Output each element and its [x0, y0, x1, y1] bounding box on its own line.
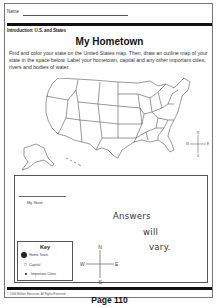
map-compass-rose: N S W E	[186, 131, 210, 157]
key-item-label: Capital	[29, 263, 40, 267]
svg-text:W: W	[186, 142, 189, 146]
answer-text-line-2: will	[143, 227, 158, 237]
key-item-label: Home Town	[29, 253, 48, 257]
svg-text:E: E	[207, 142, 209, 146]
us-map-image	[18, 78, 204, 174]
key-item-label: Important Cities	[31, 272, 56, 276]
worksheet-title: My Hometown	[0, 36, 219, 47]
page-number: Page 110	[0, 295, 219, 305]
svg-text:W: W	[80, 261, 85, 267]
small-dot-icon	[25, 273, 27, 275]
state-name-line[interactable]	[19, 196, 66, 197]
svg-text:N: N	[197, 131, 199, 135]
name-label: Name	[7, 9, 19, 14]
instructions-text: Find and color your state on the United …	[9, 50, 209, 71]
svg-text:S: S	[197, 154, 199, 157]
state-compass-rose: N S W E	[80, 244, 120, 284]
my-state-drawing-box[interactable]: My State Answers will vary. Key Home Tow…	[14, 175, 208, 283]
my-state-label: My State	[27, 200, 43, 205]
bottom-divider-bar	[7, 287, 212, 290]
worksheet-subtitle: Introduction: U.S. and States	[7, 28, 66, 33]
svg-text:S: S	[99, 279, 103, 284]
svg-text:N: N	[98, 244, 102, 250]
answer-text-line-1: Answers	[113, 211, 151, 221]
star-icon: ☆	[23, 262, 27, 267]
key-item-important-cities: Important Cities	[23, 272, 56, 276]
name-input-line[interactable]	[23, 15, 128, 16]
key-item-capital: ☆ Capital	[23, 262, 40, 267]
filled-circle-icon	[21, 252, 27, 258]
answer-text-line-3: vary.	[149, 242, 171, 252]
key-item-home-town: Home Town	[21, 252, 48, 258]
top-divider-bar	[7, 23, 212, 26]
svg-text:E: E	[115, 261, 119, 267]
map-key-legend: Key Home Town ☆ Capital Important Cities	[17, 241, 73, 281]
key-title: Key	[18, 244, 72, 250]
